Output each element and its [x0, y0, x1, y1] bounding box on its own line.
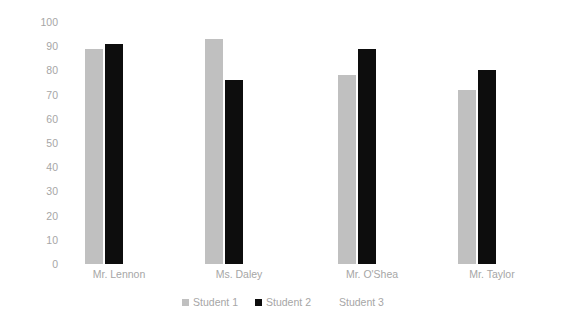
legend-item-student2[interactable]: Student 2 — [255, 297, 311, 308]
legend-item-student3[interactable]: Student 3 — [328, 297, 384, 308]
legend-item-student1[interactable]: Student 1 — [182, 297, 238, 308]
bar-student1 — [338, 75, 356, 264]
y-axis-tick: 50 — [18, 138, 58, 149]
y-axis-tick: 30 — [18, 186, 58, 197]
y-axis-tick: 70 — [18, 89, 58, 100]
y-axis: 100 90 80 70 60 50 40 30 20 10 0 — [14, 22, 58, 264]
y-axis-tick: 80 — [18, 65, 58, 76]
y-axis-tick: 90 — [18, 41, 58, 52]
bar-group — [85, 22, 205, 264]
x-axis-label: Mr. Taylor — [432, 268, 552, 282]
bar-student1 — [458, 90, 476, 264]
bar-student2 — [105, 44, 123, 264]
bar-student2 — [358, 49, 376, 264]
y-axis-tick: 100 — [18, 17, 58, 28]
bar-group — [458, 22, 566, 264]
y-axis-tick: 0 — [18, 259, 58, 270]
legend-swatch-icon — [255, 299, 262, 306]
y-axis-tick: 20 — [18, 210, 58, 221]
bar-group — [338, 22, 458, 264]
bar-student2 — [478, 70, 496, 264]
x-axis: Mr. Lennon Ms. Daley Mr. O'Shea Mr. Tayl… — [62, 268, 542, 284]
bar-student1 — [85, 49, 103, 264]
y-axis-tick: 60 — [18, 114, 58, 125]
y-axis-tick: 10 — [18, 235, 58, 246]
x-axis-label: Mr. O'Shea — [312, 268, 432, 282]
bar-student1 — [205, 39, 223, 264]
bar-chart: 100 90 80 70 60 50 40 30 20 10 0 — [0, 0, 566, 328]
bar-group — [205, 22, 325, 264]
legend-label: Student 1 — [193, 297, 238, 308]
legend-label: Student 2 — [266, 297, 311, 308]
legend-label: Student 3 — [339, 297, 384, 308]
y-axis-tick: 40 — [18, 162, 58, 173]
x-axis-label: Mr. Lennon — [59, 268, 179, 282]
bar-student2 — [225, 80, 243, 264]
legend-swatch-icon — [328, 299, 335, 306]
x-axis-label: Ms. Daley — [179, 268, 299, 282]
legend-swatch-icon — [182, 299, 189, 306]
plot-area — [62, 22, 542, 264]
chart-legend: Student 1 Student 2 Student 3 — [0, 297, 566, 308]
